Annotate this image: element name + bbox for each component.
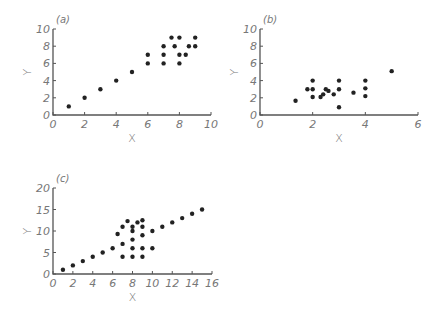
x-tick-label: 0 — [50, 118, 57, 131]
data-point — [310, 95, 314, 99]
x-axis-label: X — [335, 132, 343, 145]
data-point — [172, 44, 176, 48]
data-point — [67, 104, 71, 108]
x-tick-label: 14 — [185, 277, 199, 290]
x-tick-label: 0 — [50, 277, 57, 290]
data-point — [146, 61, 150, 65]
y-tick-label: 10 — [243, 23, 257, 36]
x-tick-label: 10 — [204, 118, 218, 131]
panel-label: (c) — [56, 173, 69, 184]
data-point — [310, 78, 314, 82]
data-point — [337, 105, 341, 109]
data-point — [351, 90, 355, 94]
data-point — [184, 53, 188, 57]
y-axis-label: Y — [21, 227, 34, 234]
x-tick-label: 6 — [415, 118, 422, 131]
y-tick-label: 4 — [250, 75, 257, 88]
data-point — [177, 35, 181, 39]
y-tick-label: 0 — [43, 268, 50, 281]
x-axis-label: X — [129, 291, 137, 304]
data-point — [82, 96, 86, 100]
y-axis-label: Y — [21, 68, 34, 75]
x-tick-label: 4 — [362, 118, 369, 131]
data-point — [130, 237, 134, 241]
y-tick-label: 2 — [43, 92, 50, 105]
x-tick-label: 8 — [176, 118, 183, 131]
data-point — [161, 44, 165, 48]
data-point — [332, 92, 336, 96]
x-tick-label: 6 — [109, 277, 116, 290]
data-point — [305, 87, 309, 91]
data-point — [193, 44, 197, 48]
data-point — [81, 259, 85, 263]
data-point — [110, 246, 114, 250]
data-point — [130, 70, 134, 74]
data-point — [161, 61, 165, 65]
x-tick-label: 2 — [69, 277, 76, 290]
data-point — [363, 86, 367, 90]
data-point — [120, 242, 124, 246]
data-point — [150, 229, 154, 233]
data-point — [310, 87, 314, 91]
scatter-plot-figure: 02468100246810XY(a) 02460246810XY(b) 024… — [0, 0, 445, 311]
x-axis-label: X — [128, 132, 136, 145]
y-tick-label: 8 — [43, 40, 50, 53]
data-point — [160, 225, 164, 229]
data-point — [71, 263, 75, 267]
y-tick-label: 10 — [36, 23, 50, 36]
data-point — [363, 94, 367, 98]
data-point — [130, 246, 134, 250]
x-tick-label: 12 — [165, 277, 179, 290]
y-tick-label: 10 — [36, 225, 50, 238]
x-tick-label: 4 — [89, 277, 96, 290]
y-tick-label: 6 — [250, 57, 257, 70]
y-tick-label: 8 — [250, 40, 257, 53]
data-point — [114, 78, 118, 82]
x-tick-label: 0 — [257, 118, 264, 131]
scatter-panel-a: 02468100246810XY(a) — [21, 14, 218, 145]
data-point — [161, 53, 165, 57]
data-point — [177, 53, 181, 57]
x-tick-label: 2 — [309, 118, 316, 131]
y-tick-label: 6 — [43, 57, 50, 70]
data-point — [170, 220, 174, 224]
y-tick-label: 2 — [250, 92, 257, 105]
data-point — [187, 44, 191, 48]
data-point — [337, 87, 341, 91]
y-tick-label: 4 — [43, 75, 50, 88]
y-tick-label: 0 — [250, 109, 257, 122]
y-tick-label: 20 — [36, 182, 50, 195]
data-point — [130, 225, 134, 229]
panel-label: (b) — [263, 14, 277, 25]
data-point — [130, 255, 134, 259]
x-tick-label: 16 — [205, 277, 219, 290]
y-tick-label: 5 — [43, 247, 50, 260]
panel-label: (a) — [56, 14, 70, 25]
data-point — [190, 212, 194, 216]
data-point — [140, 225, 144, 229]
scatter-panel-b: 02460246810XY(b) — [228, 14, 422, 145]
data-point — [135, 220, 139, 224]
data-point — [98, 87, 102, 91]
x-tick-label: 8 — [129, 277, 136, 290]
data-point — [321, 92, 325, 96]
data-point — [146, 53, 150, 57]
data-point — [140, 255, 144, 259]
scatter-panel-c: 024681012141605101520XY(c) — [21, 173, 219, 304]
data-point — [91, 255, 95, 259]
y-tick-label: 0 — [43, 109, 50, 122]
y-axis-label: Y — [228, 68, 241, 75]
data-point — [363, 78, 367, 82]
data-point — [100, 250, 104, 254]
data-point — [389, 69, 393, 73]
data-point — [200, 207, 204, 211]
data-point — [140, 218, 144, 222]
data-point — [120, 225, 124, 229]
data-point — [150, 246, 154, 250]
data-point — [169, 35, 173, 39]
data-point — [177, 61, 181, 65]
data-point — [293, 99, 297, 103]
data-point — [120, 255, 124, 259]
x-tick-label: 2 — [81, 118, 88, 131]
x-tick-label: 4 — [113, 118, 120, 131]
